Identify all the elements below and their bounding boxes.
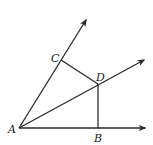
geometry-diagram: A C D B [0, 0, 153, 145]
label-point-C: C [51, 52, 60, 65]
ray-AD [19, 60, 144, 128]
segment-CD [61, 60, 98, 84]
label-point-A: A [7, 123, 16, 136]
ray-AC [19, 20, 86, 128]
label-point-B: B [93, 132, 102, 145]
label-point-D: D [95, 71, 105, 84]
